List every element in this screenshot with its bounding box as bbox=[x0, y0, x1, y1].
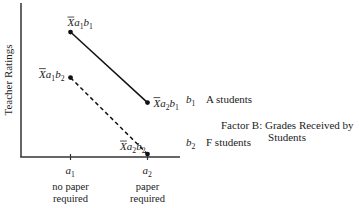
factor-b-label-line2: Students bbox=[268, 131, 306, 143]
x-category-desc-line1: paper bbox=[136, 181, 160, 192]
data-point-b1-a2 bbox=[145, 100, 150, 105]
point-label-x-bar-a1b2: Xa1b2 bbox=[38, 68, 65, 83]
point-label-x-bar-a1b1: Xa1b1 bbox=[67, 16, 94, 31]
point-label-x-bar-a2b1: Xa2b1 bbox=[153, 97, 180, 112]
x-tick-label-a2: a2 bbox=[143, 164, 153, 179]
data-point-b2-a2 bbox=[145, 152, 150, 157]
legend-text-b1: A students bbox=[206, 93, 252, 105]
data-point-b1-a1 bbox=[68, 30, 73, 35]
x-tick-label-a1: a1 bbox=[66, 164, 76, 179]
point-label-x-bar-a2b2: Xa2b2 bbox=[119, 140, 146, 155]
x-category-desc-line2: required bbox=[53, 193, 89, 204]
series-line-b1 bbox=[71, 32, 148, 103]
y-axis-label: Teacher Ratings bbox=[2, 44, 14, 115]
legend-symbol-b1: b1 bbox=[186, 93, 196, 108]
legend-symbol-b2: b2 bbox=[186, 136, 196, 151]
factor-b-label-line1: Factor B: Grades Received by bbox=[221, 119, 354, 131]
x-category-desc-line2: required bbox=[130, 193, 166, 204]
interaction-plot: Teacher Ratings a1no paperrequireda2pape… bbox=[0, 0, 359, 208]
data-point-b2-a1 bbox=[68, 75, 73, 80]
legend-text-b2: F students bbox=[206, 136, 251, 148]
x-category-desc-line1: no paper bbox=[52, 181, 89, 192]
